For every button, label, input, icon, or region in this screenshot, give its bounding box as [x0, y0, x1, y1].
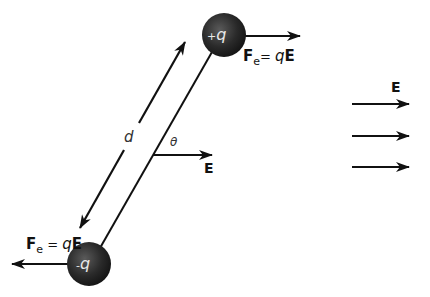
- angle-label: θ: [170, 136, 177, 148]
- positive-charge-label: +q: [207, 27, 226, 43]
- center-field-label: E: [204, 161, 214, 175]
- field-symbol: E: [72, 235, 82, 253]
- equals: =: [260, 49, 275, 64]
- dipole-rod: [100, 52, 212, 248]
- force-subscript: e: [36, 243, 43, 256]
- dipole-diagram: +q -q Fe= qE Fe = qE d θ E E: [0, 0, 430, 297]
- separation-label: d: [124, 130, 134, 145]
- plus-sign: +: [207, 30, 216, 43]
- force-label-positive: Fe= qE: [243, 49, 295, 64]
- charge-q: q: [62, 235, 72, 253]
- equals: =: [43, 237, 62, 252]
- charge-q: q: [216, 25, 226, 44]
- force-label-negative: Fe = qE: [26, 237, 82, 252]
- force-subscript: e: [253, 55, 260, 68]
- negative-charge-label: -q: [76, 256, 90, 272]
- field-symbol: E: [285, 47, 295, 65]
- field-label: E: [391, 80, 401, 94]
- force-symbol: F: [26, 235, 36, 253]
- charge-q: q: [275, 47, 285, 65]
- charge-q: q: [80, 254, 90, 273]
- force-symbol: F: [243, 47, 253, 65]
